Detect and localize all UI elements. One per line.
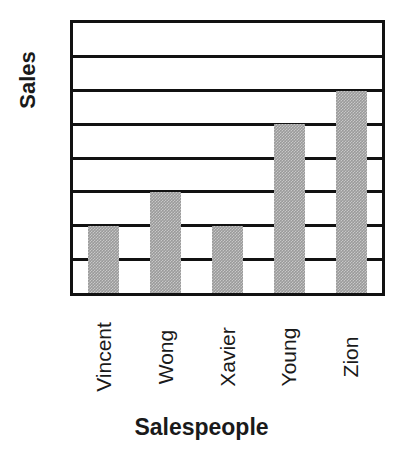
bar-zion bbox=[336, 91, 367, 294]
x-tick-label: Xavier bbox=[217, 302, 239, 412]
bar-young bbox=[274, 124, 305, 293]
plot-area bbox=[70, 20, 385, 296]
bar-wong bbox=[150, 192, 181, 293]
chart-page: Sales Salespeople VincentWongXavierYoung… bbox=[0, 0, 403, 453]
y-axis-title: Sales bbox=[8, 20, 48, 140]
x-tick-label: Zion bbox=[340, 302, 362, 412]
x-tick-label: Vincent bbox=[93, 302, 115, 412]
bar-vincent bbox=[88, 226, 119, 294]
gridline bbox=[73, 55, 382, 58]
x-axis-title: Salespeople bbox=[0, 414, 403, 441]
plot-inner bbox=[73, 23, 382, 293]
x-tick-label: Young bbox=[278, 302, 300, 412]
x-tick-label: Wong bbox=[155, 302, 177, 412]
bar-xavier bbox=[212, 226, 243, 294]
